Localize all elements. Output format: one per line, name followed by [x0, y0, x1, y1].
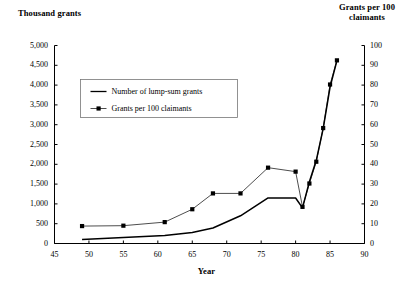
plot-area — [0, 0, 413, 288]
x-tick-label: 60 — [146, 251, 170, 259]
y-tick-label-right: 20 — [370, 200, 400, 208]
y-tick-label-left: 500 — [14, 220, 48, 228]
y-tick-label-left: 1,500 — [14, 180, 48, 188]
y-tick-label-right: 60 — [370, 121, 400, 129]
y-tick-label-left: 4,500 — [14, 61, 48, 69]
y-tick-label-left: 2,500 — [14, 141, 48, 149]
x-tick-label: 45 — [43, 251, 67, 259]
x-tick-label: 90 — [353, 251, 377, 259]
y-tick-label-left: 2,000 — [14, 160, 48, 168]
y-tick-label-right: 70 — [370, 101, 400, 109]
y-tick-label-right: 30 — [370, 180, 400, 188]
legend-entry-label: Number of lump-sum grants — [112, 87, 203, 96]
y-tick-label-right: 50 — [370, 141, 400, 149]
axis-frame — [55, 46, 365, 244]
y-tick-label-right: 40 — [370, 160, 400, 168]
y-tick-label-left: 4,000 — [14, 81, 48, 89]
x-tick-label: 55 — [111, 251, 135, 259]
legend-entry-label: Grants per 100 claimants — [112, 104, 192, 113]
x-tick-label: 75 — [249, 251, 273, 259]
y-tick-label-right: 100 — [370, 42, 400, 50]
axis-ticks — [55, 46, 365, 244]
x-tick-label: 65 — [180, 251, 204, 259]
x-tick-label: 50 — [77, 251, 101, 259]
y-tick-label-left: 3,000 — [14, 121, 48, 129]
x-tick-label: 85 — [318, 251, 342, 259]
x-tick-label: 70 — [215, 251, 239, 259]
y-tick-label-left: 0 — [14, 240, 48, 248]
x-tick-label: 80 — [284, 251, 308, 259]
y-tick-label-right: 10 — [370, 220, 400, 228]
y-tick-label-right: 0 — [370, 240, 400, 248]
y-tick-label-right: 80 — [370, 81, 400, 89]
chart-figure: Thousand grants Grants per 100 claimants… — [0, 0, 413, 288]
y-tick-label-right: 90 — [370, 61, 400, 69]
y-tick-label-left: 3,500 — [14, 101, 48, 109]
y-tick-label-left: 1,000 — [14, 200, 48, 208]
y-tick-label-left: 5,000 — [14, 42, 48, 50]
